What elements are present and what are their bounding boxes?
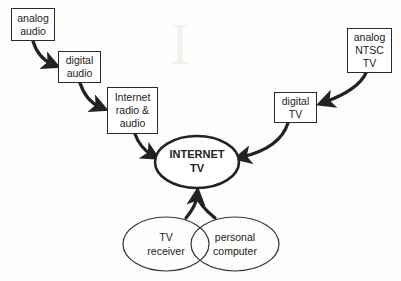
internet-tv-label: INTERNET TV <box>157 147 237 175</box>
arrow-internet-radio-to-internet-tv <box>135 134 152 155</box>
analog-audio-box: analog audio <box>11 8 55 41</box>
digital-audio-box: digital audio <box>58 51 101 83</box>
arrow-analog-ntsc-to-digital-tv <box>325 73 366 102</box>
arrow-tv-receiver-to-internet-tv <box>186 196 197 218</box>
digital-audio-label: digital audio <box>66 54 93 80</box>
personal-computer-label: personal computer <box>205 230 265 258</box>
arrow-digital-audio-to-internet-radio <box>80 83 100 107</box>
arrow-personal-computer-to-internet-tv <box>197 196 215 218</box>
analog-audio-label: analog audio <box>17 12 49 38</box>
analog-ntsc-tv-box: analog NTSC TV <box>347 28 392 73</box>
digital-tv-label: digital TV <box>282 95 309 121</box>
digital-tv-box: digital TV <box>274 92 317 123</box>
connectors-layer <box>0 0 401 281</box>
internet-radio-label: Internet radio & audio <box>115 91 151 130</box>
arrow-analog-audio-to-digital-audio <box>33 41 52 64</box>
analog-ntsc-tv-label: analog NTSC TV <box>354 31 386 70</box>
tv-receiver-label: TV receiver <box>136 230 196 258</box>
diagram-canvas: I analog audio digital audio Internet ra… <box>0 0 401 281</box>
internet-radio-box: Internet radio & audio <box>107 87 158 134</box>
arrow-digital-tv-to-internet-tv <box>242 123 288 157</box>
